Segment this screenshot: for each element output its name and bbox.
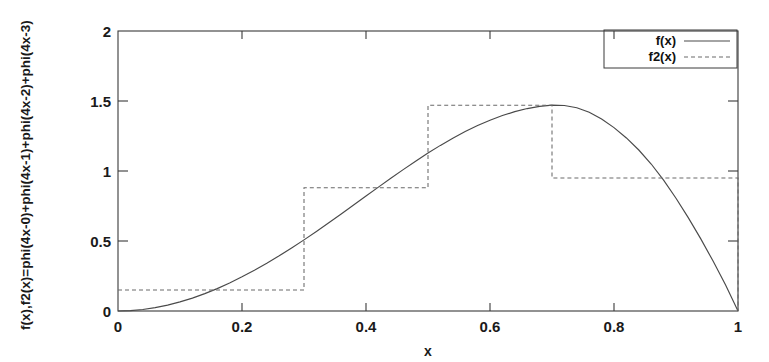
- y-axis-title: f(x),f2(x)=phi(4x-0)+phi(4x-1)+phi(4x-2)…: [18, 20, 33, 330]
- x-tick-label: 0.4: [356, 318, 378, 335]
- x-tick-labels: 0 0.2 0.4 0.6 0.8 1: [114, 318, 742, 335]
- legend-label-fx: f(x): [656, 33, 676, 48]
- y-tick-labels: 2 1.5 1 0.5 0: [90, 23, 111, 320]
- x-tick-label: 1: [734, 318, 742, 335]
- y-tick-label: 1: [103, 163, 111, 180]
- y-tick-label: 1.5: [90, 93, 111, 110]
- y-tick-label: 2: [103, 23, 111, 40]
- chart-container: f(x),f2(x)=phi(4x-0)+phi(4x-1)+phi(4x-2)…: [0, 0, 769, 362]
- chart-svg: f(x),f2(x)=phi(4x-0)+phi(4x-1)+phi(4x-2)…: [0, 0, 769, 362]
- x-tick-label: 0.2: [232, 318, 253, 335]
- x-axis-title: x: [424, 343, 432, 359]
- x-tick-label: 0.6: [480, 318, 501, 335]
- series-f2x-step: [118, 105, 738, 311]
- x-tick-label: 0: [114, 318, 122, 335]
- y-tick-label: 0.5: [90, 233, 111, 250]
- legend-label-f2x: f2(x): [649, 49, 676, 64]
- x-tick-label: 0.8: [604, 318, 625, 335]
- legend: f(x) f2(x): [604, 30, 737, 68]
- series-group: [118, 105, 738, 311]
- y-tick-label: 0: [103, 303, 111, 320]
